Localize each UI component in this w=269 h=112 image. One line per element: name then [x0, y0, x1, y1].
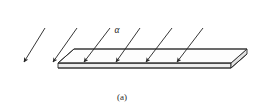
- plate-front-thickness-face: [58, 63, 231, 68]
- figure-caption: (a): [117, 92, 127, 102]
- figure-svg: α (a): [0, 0, 269, 112]
- plate-top-surface: [58, 49, 247, 63]
- figure-container: α (a): [0, 0, 269, 112]
